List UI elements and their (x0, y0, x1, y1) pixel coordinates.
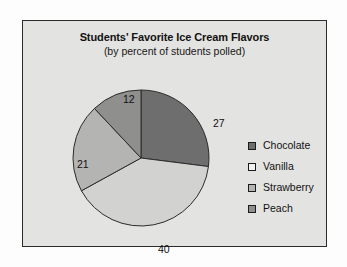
legend-item-chocolate: Chocolate (248, 135, 344, 156)
legend-swatch-peach (248, 205, 256, 213)
pie-chart (72, 89, 210, 227)
legend-label-vanilla: Vanilla (263, 161, 294, 172)
chart-title: Students' Favorite Ice Cream Flavors (23, 31, 326, 43)
legend-label-strawberry: Strawberry (263, 182, 314, 193)
legend-swatch-strawberry (248, 184, 256, 192)
pie-slice-chocolate (141, 90, 209, 167)
pie-svg (72, 89, 210, 227)
pie-label-strawberry: 21 (77, 158, 89, 170)
legend-item-strawberry: Strawberry (248, 177, 344, 198)
pie-label-peach: 12 (123, 93, 135, 105)
legend-label-chocolate: Chocolate (263, 140, 310, 151)
legend-swatch-vanilla (248, 163, 256, 171)
chart-subtitle: (by percent of students polled) (23, 45, 326, 57)
legend-label-peach: Peach (263, 203, 293, 214)
legend-item-vanilla: Vanilla (248, 156, 344, 177)
chart-frame: Students' Favorite Ice Cream Flavors (by… (22, 20, 327, 247)
legend-swatch-chocolate (248, 142, 256, 150)
pie-label-chocolate: 27 (213, 117, 225, 129)
chart-legend: Chocolate Vanilla Strawberry Peach (248, 135, 344, 219)
chart-page: Students' Favorite Ice Cream Flavors (by… (0, 0, 347, 267)
pie-label-vanilla: 40 (158, 243, 170, 255)
legend-item-peach: Peach (248, 198, 344, 219)
pie-slice-group (73, 90, 209, 226)
